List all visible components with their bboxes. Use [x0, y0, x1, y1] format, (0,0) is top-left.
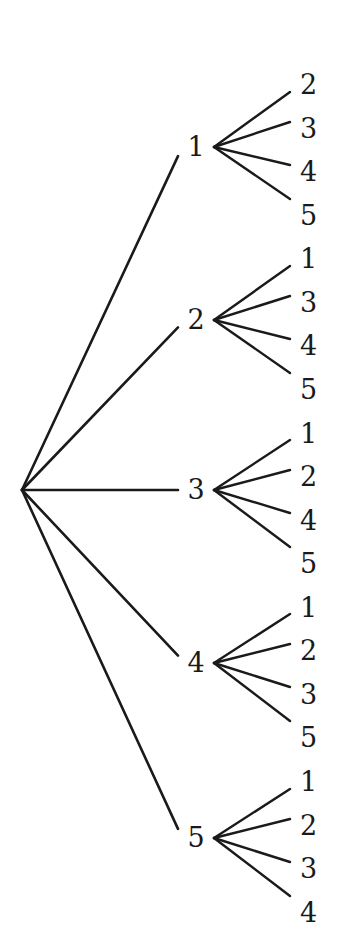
leaf-label-1-5: 5 — [300, 202, 326, 229]
root-edge-to-node-5 — [22, 490, 178, 829]
leaf-label-2-1: 1 — [300, 245, 326, 272]
edge-1-to-3 — [214, 122, 290, 147]
edge-4-to-1 — [214, 614, 290, 663]
leaf-label-5-4: 4 — [300, 899, 326, 926]
leaf-label-4-5: 5 — [300, 724, 326, 751]
leaf-label-4-3: 3 — [300, 681, 326, 708]
edge-3-to-2 — [214, 470, 290, 490]
root-edge-to-node-4 — [22, 490, 178, 656]
node-label-5: 5 — [184, 824, 208, 851]
edge-4-to-2 — [214, 644, 290, 663]
leaf-label-3-5: 5 — [300, 550, 326, 577]
leaf-label-2-3: 3 — [300, 289, 326, 316]
edge-4-to-5 — [214, 663, 290, 721]
edge-2-to-3 — [214, 296, 290, 320]
root-edge-to-node-1 — [22, 156, 178, 490]
edge-3-to-5 — [214, 490, 290, 547]
leaf-label-2-4: 4 — [300, 332, 326, 359]
edge-3-to-1 — [214, 440, 290, 490]
edge-2-to-5 — [214, 320, 290, 373]
leaf-label-1-2: 2 — [300, 71, 326, 98]
node-label-1: 1 — [184, 133, 208, 160]
edge-3-to-4 — [214, 490, 290, 513]
edge-5-to-2 — [214, 819, 290, 838]
node-label-2: 2 — [184, 306, 208, 333]
tree-edges-canvas — [0, 0, 347, 951]
permutation-tree-figure: 1234521345312454123551234 — [0, 0, 347, 951]
edge-5-to-3 — [214, 838, 290, 862]
leaf-label-3-1: 1 — [300, 420, 326, 447]
leaf-label-3-4: 4 — [300, 507, 326, 534]
edge-1-to-2 — [214, 92, 290, 147]
leaf-label-5-3: 3 — [300, 855, 326, 882]
leaf-label-4-1: 1 — [300, 594, 326, 621]
node-label-4: 4 — [184, 649, 208, 676]
root-edge-to-node-2 — [22, 327, 178, 490]
leaf-label-5-2: 2 — [300, 812, 326, 839]
leaf-label-1-4: 4 — [300, 158, 326, 185]
edge-5-to-4 — [214, 838, 290, 896]
leaf-label-5-1: 1 — [300, 768, 326, 795]
node-label-3: 3 — [184, 476, 208, 503]
edge-2-to-1 — [214, 266, 290, 320]
edge-2-to-4 — [214, 320, 290, 339]
leaf-label-1-3: 3 — [300, 115, 326, 142]
leaf-label-3-2: 2 — [300, 463, 326, 490]
edge-5-to-1 — [214, 789, 290, 838]
leaf-label-2-5: 5 — [300, 376, 326, 403]
leaf-label-4-2: 2 — [300, 637, 326, 664]
edge-4-to-3 — [214, 663, 290, 687]
